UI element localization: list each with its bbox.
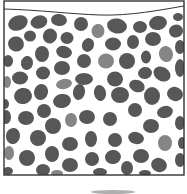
dark-particle [103, 112, 117, 126]
dark-particle [143, 119, 159, 133]
dark-particle [30, 130, 46, 146]
dark-particle [133, 149, 149, 163]
dark-particle [85, 152, 99, 166]
light-particle [4, 146, 14, 160]
bottom-smudge [91, 190, 135, 194]
dark-particle [45, 118, 61, 134]
dark-particle [35, 46, 49, 62]
dark-particle [37, 104, 51, 118]
dark-particle [173, 13, 183, 21]
dark-particle [75, 73, 93, 85]
dark-particle [77, 54, 91, 68]
dark-particle [74, 17, 88, 31]
dark-particle [62, 158, 78, 172]
dark-particle [12, 72, 28, 85]
dark-particle [141, 51, 151, 64]
dark-particle [24, 31, 36, 42]
dark-particle [19, 150, 35, 166]
dark-particle [18, 111, 34, 125]
dark-particle [145, 32, 161, 46]
dark-particle [128, 103, 142, 117]
dark-particle [36, 67, 50, 80]
dark-particle [45, 146, 59, 162]
dark-particle [105, 38, 121, 51]
dark-particle [79, 110, 95, 124]
dark-particle [62, 137, 78, 151]
light-particle [65, 113, 77, 127]
dark-particle [36, 164, 50, 176]
particle-container-diagram [0, 0, 187, 194]
dark-particle [121, 161, 133, 175]
dark-particle [133, 21, 147, 33]
dark-particle [111, 87, 129, 103]
dark-particle [144, 87, 160, 105]
dark-particle [127, 35, 139, 49]
dark-particle [107, 72, 123, 87]
light-particle [98, 54, 114, 69]
dark-particle [61, 32, 74, 44]
dark-particle [54, 61, 70, 75]
dark-particle [119, 53, 135, 69]
light-particle [158, 135, 172, 151]
dark-particle [108, 133, 122, 147]
dark-particle [85, 131, 97, 147]
